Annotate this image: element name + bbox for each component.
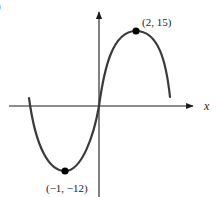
- function-graph: (2, 15) (−1, −12) x: [0, 0, 217, 197]
- local-max-point: [132, 27, 139, 34]
- local-max-label: (2, 15): [142, 16, 172, 29]
- local-min-point: [61, 167, 68, 174]
- x-axis-label: x: [203, 99, 210, 113]
- local-min-label: (−1, −12): [46, 182, 88, 195]
